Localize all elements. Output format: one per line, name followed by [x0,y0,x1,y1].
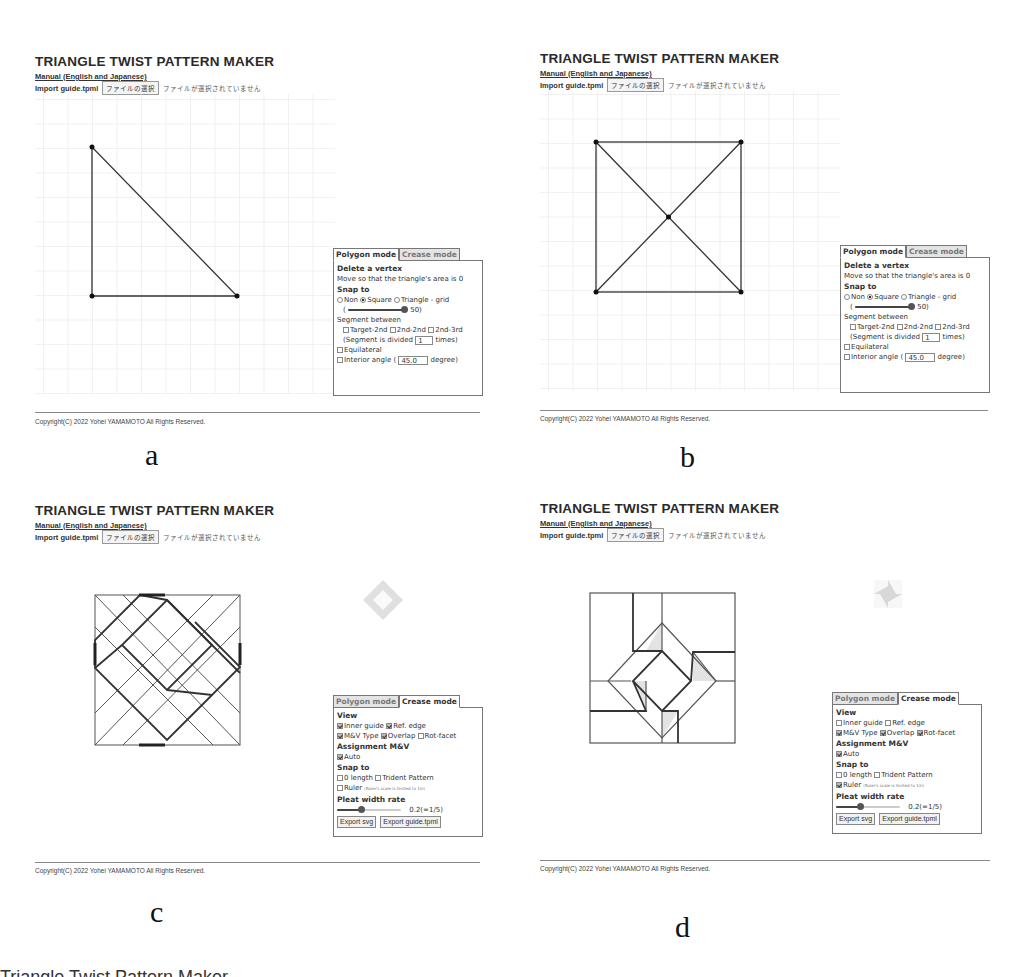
zero-length-label: 0 length [843,771,872,779]
tab-crease-mode[interactable]: Crease mode [399,695,460,708]
zero-length-checkbox[interactable] [836,772,842,778]
import-row: Import guide.tpml ファイルの選択 ファイルが選択されていません [35,81,261,95]
vertex-handle[interactable] [666,215,671,220]
ref-edge-checkbox[interactable] [885,720,891,726]
ruler-label: Ruler [344,784,362,792]
mv-type-checkbox[interactable] [836,730,842,736]
footer-divider [35,412,480,413]
tab-polygon-mode[interactable]: Polygon mode [333,695,399,708]
vertex-handle[interactable] [739,290,744,295]
crease-pattern-canvas[interactable] [35,543,335,843]
zero-length-checkbox[interactable] [337,775,343,781]
file-choose-button[interactable]: ファイルの選択 [102,81,159,95]
rot-facet-checkbox[interactable] [418,733,424,739]
vertex-handle[interactable] [594,140,599,145]
snap-triangle-radio[interactable] [394,297,400,303]
drawing-canvas[interactable] [540,91,840,391]
tab-polygon-mode[interactable]: Polygon mode [840,245,906,258]
manual-link[interactable]: Manual (English and Japanese) [540,69,652,78]
overlap-checkbox[interactable] [381,733,387,739]
equilateral-checkbox[interactable] [844,344,850,350]
snap-non-radio[interactable] [844,294,850,300]
manual-link[interactable]: Manual (English and Japanese) [540,519,652,528]
mv-type-checkbox[interactable] [337,733,343,739]
interior-angle-checkbox[interactable] [844,354,850,360]
equilateral-checkbox[interactable] [337,347,343,353]
inner-guide-checkbox[interactable] [836,720,842,726]
snap-non-label: Non [851,293,865,301]
vertex-handle[interactable] [90,294,95,299]
pleat-width-slider[interactable] [337,806,401,814]
target-2nd-checkbox[interactable] [850,324,856,330]
snap-options: Non Square Triangle - grid [337,295,479,305]
2nd-2nd-checkbox[interactable] [897,324,903,330]
pleat-title: Pleat width rate [337,795,479,805]
figure-label-b: b [680,440,695,474]
view-row-2: M&V Type Overlap Rot-facet [836,728,978,738]
interior-angle-input[interactable]: 45.0 [398,356,428,365]
tab-crease-mode[interactable]: Crease mode [898,692,959,705]
file-choose-button[interactable]: ファイルの選択 [607,528,664,542]
file-choose-button[interactable]: ファイルの選択 [607,78,664,92]
2nd-2nd-checkbox[interactable] [390,327,396,333]
grid-size-slider[interactable] [855,303,915,311]
rot-facet-checkbox[interactable] [917,730,923,736]
footer-divider [540,860,990,861]
interior-angle-input[interactable]: 45.0 [905,353,935,362]
ruler-checkbox[interactable] [337,785,343,791]
drawing-canvas[interactable] [35,94,335,394]
vertex-handle[interactable] [594,290,599,295]
target-2nd-checkbox[interactable] [343,327,349,333]
manual-link[interactable]: Manual (English and Japanese) [35,72,147,81]
tab-crease-mode[interactable]: Crease mode [906,245,967,258]
pleat-width-slider[interactable] [836,803,900,811]
auto-row: Auto [337,752,479,762]
import-label: Import guide.tpml [35,533,98,542]
export-svg-button[interactable]: Export svg [836,813,875,825]
view-row-1: Inner guide Ref. edge [337,721,479,731]
export-tpml-button[interactable]: Export guide.tpml [380,816,440,828]
inner-guide-checkbox[interactable] [337,723,343,729]
manual-link[interactable]: Manual (English and Japanese) [35,521,147,530]
divided-input[interactable]: 1 [415,336,433,345]
vertex-handle[interactable] [235,294,240,299]
crease-pattern-canvas[interactable] [540,541,840,841]
interior-angle-checkbox[interactable] [337,357,343,363]
rot-facet-label: Rot-facet [924,729,956,737]
2nd-3rd-checkbox[interactable] [935,324,941,330]
divided-row: (Segment is divided 1 times) [844,332,986,342]
overlap-checkbox[interactable] [880,730,886,736]
import-row: Import guide.tpml ファイルの選択 ファイルが選択されていません [540,78,766,92]
ruler-row: Ruler (Ruler's scale is limited to 1/n) [836,780,978,791]
snap-triangle-radio[interactable] [901,294,907,300]
trident-checkbox[interactable] [375,775,381,781]
snap-square-radio[interactable] [867,294,873,300]
auto-checkbox[interactable] [337,754,343,760]
vertex-handle[interactable] [739,140,744,145]
tab-polygon-mode[interactable]: Polygon mode [333,248,399,261]
grid-size-slider[interactable] [348,306,408,314]
canvas-svg [540,91,840,391]
trident-checkbox[interactable] [874,772,880,778]
auto-checkbox[interactable] [836,751,842,757]
control-panel-b: Polygon mode Crease mode Delete a vertex… [840,257,990,393]
2nd-3rd-checkbox[interactable] [428,327,434,333]
control-panel-c: Polygon mode Crease mode View Inner guid… [333,707,483,837]
crease-pattern-svg [540,541,840,841]
snap-square-radio[interactable] [360,297,366,303]
vertex-handle[interactable] [90,145,95,150]
ref-edge-checkbox[interactable] [386,723,392,729]
divided-input[interactable]: 1 [922,333,940,342]
overlap-label: Overlap [388,732,416,740]
tab-crease-mode[interactable]: Crease mode [399,248,460,261]
export-tpml-button[interactable]: Export guide.tpml [879,813,939,825]
2nd-3rd-label: 2nd-3rd [435,326,463,334]
view-row-1: Inner guide Ref. edge [836,718,978,728]
snap-non-radio[interactable] [337,297,343,303]
file-choose-button[interactable]: ファイルの選択 [102,530,159,544]
target-2nd-label: Target-2nd [857,323,895,331]
ruler-checkbox[interactable] [836,782,842,788]
tab-polygon-mode[interactable]: Polygon mode [832,692,898,705]
export-svg-button[interactable]: Export svg [337,816,376,828]
equilateral-label: Equilateral [344,346,382,354]
